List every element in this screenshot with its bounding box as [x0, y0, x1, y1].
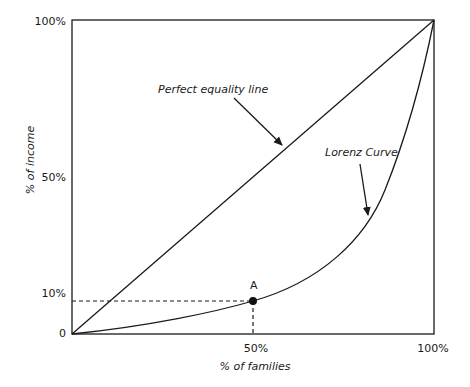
point-a-label: A — [250, 279, 258, 292]
point-a-marker — [249, 297, 257, 305]
x-tick-100: 100% — [417, 342, 448, 355]
origin-label: 0 — [59, 327, 66, 340]
lorenz-diagram: A Perfect equality line Lorenz Curve 100… — [0, 0, 470, 387]
lorenz-arrow — [360, 164, 368, 215]
equality-line-label: Perfect equality line — [158, 83, 268, 96]
y-axis-title: % of income — [24, 126, 37, 195]
x-tick-50: 50% — [244, 342, 268, 355]
y-tick-50: 50% — [42, 171, 66, 184]
equality-arrow — [234, 98, 282, 145]
lorenz-curve-label: Lorenz Curve — [325, 146, 398, 159]
y-tick-100: 100% — [35, 15, 66, 28]
y-tick-10: 10% — [42, 287, 66, 300]
x-axis-title: % of families — [219, 360, 290, 373]
